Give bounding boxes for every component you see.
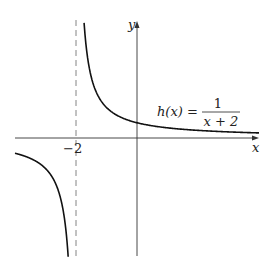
fraction-numerator: 1 (214, 96, 222, 111)
tick-label-minus-two: −2 (63, 141, 82, 156)
curve-left-branch (15, 153, 68, 256)
fraction-denominator: x + 2 (204, 114, 239, 129)
function-graph: y x −2 h(x) = 1 x + 2 (0, 0, 273, 262)
x-axis-label: x (252, 140, 260, 155)
function-name-label: h(x) = (157, 104, 198, 119)
y-axis-label: y (127, 17, 136, 32)
